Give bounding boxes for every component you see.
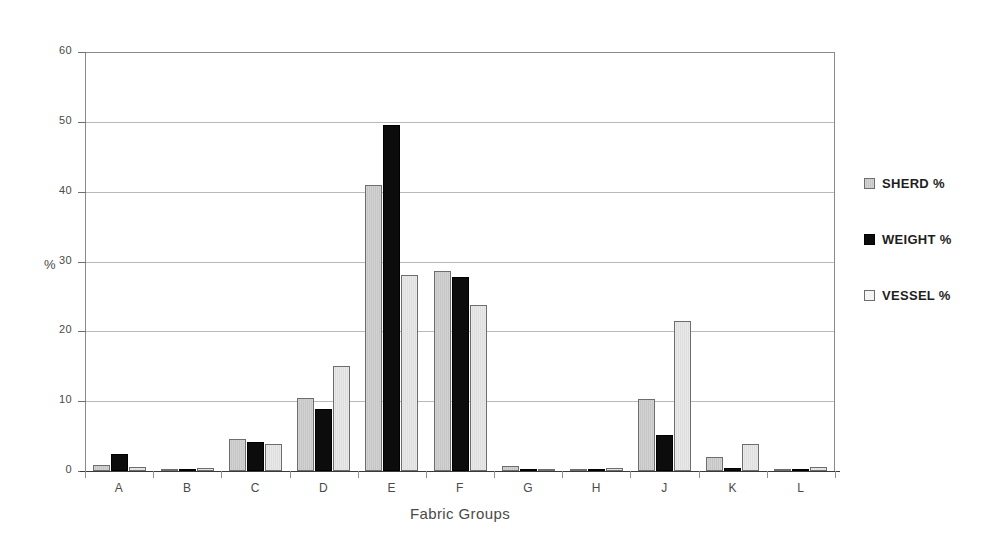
x-tick-5	[426, 471, 427, 478]
chart-canvas: 0102030405060 % ABCDEFGHJKL Fabric Group…	[0, 0, 998, 545]
x-tick-label-H: H	[592, 481, 601, 495]
x-tick-2	[221, 471, 222, 478]
bar-D-weight	[315, 409, 332, 471]
bar-group-L	[774, 52, 827, 471]
x-axis-labels: ABCDEFGHJKL	[85, 481, 835, 501]
legend-item-weight[interactable]: WEIGHT %	[864, 232, 994, 247]
legend-swatch-icon-sherd	[864, 178, 875, 189]
bar-J-weight	[656, 435, 673, 471]
x-tick-4	[358, 471, 359, 478]
bar-D-sherd	[297, 398, 314, 471]
x-tick-9	[699, 471, 700, 478]
bar-F-weight	[452, 277, 469, 471]
y-axis-labels: 0102030405060	[22, 0, 72, 545]
x-tick-label-F: F	[456, 481, 464, 495]
x-tick-label-D: D	[319, 481, 328, 495]
x-tick-label-J: J	[661, 481, 668, 495]
x-tick-8	[630, 471, 631, 478]
x-tick-1	[153, 471, 154, 478]
x-tick-label-C: C	[251, 481, 260, 495]
bar-group-B	[161, 52, 214, 471]
bar-J-sherd	[638, 399, 655, 471]
x-tick-label-G: G	[523, 481, 533, 495]
bar-group-G	[502, 52, 555, 471]
bar-group-F	[434, 52, 487, 471]
x-tick-label-L: L	[797, 481, 804, 495]
x-tick-label-E: E	[388, 481, 397, 495]
x-axis-ticks	[85, 471, 835, 481]
x-tick-3	[290, 471, 291, 478]
legend-label: WEIGHT %	[882, 232, 952, 247]
bar-group-J	[638, 52, 691, 471]
bar-group-A	[93, 52, 146, 471]
bar-C-weight	[247, 442, 264, 471]
bar-K-sherd	[706, 457, 723, 471]
bar-E-sherd	[365, 185, 382, 471]
legend-swatch-icon-vessel	[864, 290, 875, 301]
bar-C-sherd	[229, 439, 246, 471]
bar-J-vessel	[674, 321, 691, 471]
y-tick-label-20: 20	[32, 323, 72, 335]
y-axis-title: %	[44, 257, 56, 272]
chart-legend: SHERD %WEIGHT %VESSEL %	[864, 176, 994, 344]
bar-group-E	[365, 52, 418, 471]
bar-F-sherd	[434, 271, 451, 471]
bar-C-vessel	[265, 444, 282, 471]
bar-K-vessel	[742, 444, 759, 471]
bar-group-C	[229, 52, 282, 471]
x-tick-label-K: K	[728, 481, 737, 495]
legend-label: VESSEL %	[882, 288, 951, 303]
x-axis-title: Fabric Groups	[0, 505, 920, 522]
y-tick-label-50: 50	[32, 114, 72, 126]
y-tick-label-40: 40	[32, 184, 72, 196]
x-tick-label-A: A	[115, 481, 124, 495]
bar-series-container	[85, 52, 835, 471]
legend-label: SHERD %	[882, 176, 945, 191]
x-tick-0	[85, 471, 86, 478]
x-tick-6	[494, 471, 495, 478]
y-tick-label-0: 0	[32, 463, 72, 475]
bar-A-weight	[111, 454, 128, 471]
bar-group-D	[297, 52, 350, 471]
bar-D-vessel	[333, 366, 350, 471]
x-tick-label-B: B	[183, 481, 192, 495]
x-tick-10	[767, 471, 768, 478]
y-tick-label-60: 60	[32, 44, 72, 56]
legend-item-sherd[interactable]: SHERD %	[864, 176, 994, 191]
bar-E-weight	[383, 125, 400, 471]
legend-swatch-icon-weight	[864, 234, 875, 245]
bar-F-vessel	[470, 305, 487, 471]
bar-group-K	[706, 52, 759, 471]
x-tick-11	[835, 471, 836, 478]
x-tick-7	[562, 471, 563, 478]
bar-E-vessel	[401, 275, 418, 471]
legend-item-vessel[interactable]: VESSEL %	[864, 288, 994, 303]
bar-group-H	[570, 52, 623, 471]
y-tick-label-10: 10	[32, 393, 72, 405]
